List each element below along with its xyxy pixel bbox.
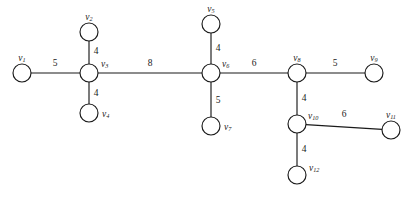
graph-node-v10 bbox=[288, 115, 306, 133]
edge-weight-v3-v4: 4 bbox=[94, 88, 99, 98]
edge-weights-layer: 54484565464 bbox=[53, 43, 347, 154]
edge-weight-v8-v9: 5 bbox=[333, 58, 338, 68]
edge-weight-v10-v11: 6 bbox=[342, 109, 347, 119]
graph-node-label-v7: v7 bbox=[224, 122, 232, 132]
edges-layer bbox=[31, 33, 382, 166]
graph-node-v11 bbox=[382, 121, 400, 139]
graph-svg: 54484565464 v1v2v3v4v5v6v7v8v9v10v11v12 bbox=[0, 0, 417, 201]
edge-weight-v3-v6: 8 bbox=[148, 58, 153, 68]
graph-node-label-v8: v8 bbox=[293, 53, 301, 63]
graph-node-label-v12: v12 bbox=[309, 163, 319, 173]
nodes-layer bbox=[13, 15, 400, 184]
edge-weight-v6-v8: 6 bbox=[252, 58, 257, 68]
graph-node-v9 bbox=[365, 64, 383, 82]
edge-weight-v5-v6: 4 bbox=[216, 43, 221, 53]
edge-weight-v1-v3: 5 bbox=[53, 58, 58, 68]
graph-node-v12 bbox=[288, 166, 306, 184]
graph-diagram-canvas: 54484565464 v1v2v3v4v5v6v7v8v9v10v11v12 bbox=[0, 0, 417, 201]
graph-node-label-v3: v3 bbox=[101, 59, 108, 69]
graph-node-label-v9: v9 bbox=[370, 53, 377, 63]
edge-weight-v2-v3: 4 bbox=[94, 46, 99, 56]
graph-node-v1 bbox=[13, 64, 31, 82]
graph-edge-v10-v11 bbox=[306, 125, 382, 130]
graph-node-v5 bbox=[202, 15, 220, 33]
graph-node-label-v10: v10 bbox=[308, 111, 319, 121]
graph-node-label-v2: v2 bbox=[85, 12, 92, 22]
graph-node-v3 bbox=[80, 64, 98, 82]
edge-weight-v10-v12: 4 bbox=[302, 144, 307, 154]
graph-node-label-v4: v4 bbox=[102, 109, 109, 119]
graph-node-v6 bbox=[202, 64, 220, 82]
edge-weight-v6-v7: 5 bbox=[216, 95, 221, 105]
graph-node-v4 bbox=[80, 104, 98, 122]
graph-node-v2 bbox=[80, 23, 98, 41]
graph-node-label-v5: v5 bbox=[207, 4, 214, 14]
graph-node-v7 bbox=[202, 117, 220, 135]
edge-weight-v8-v10: 4 bbox=[302, 93, 307, 103]
graph-node-label-v11: v11 bbox=[386, 110, 396, 120]
graph-node-label-v6: v6 bbox=[222, 59, 230, 69]
graph-node-label-v1: v1 bbox=[18, 53, 25, 63]
graph-node-v8 bbox=[288, 64, 306, 82]
